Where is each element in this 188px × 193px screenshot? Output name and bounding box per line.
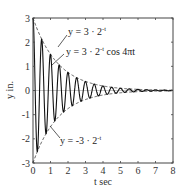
x-tick-labels: 012345678 [31, 165, 176, 176]
lower-envelope-curve [33, 91, 173, 163]
x-tick-label: 2 [66, 165, 71, 176]
y-tick-labels: 3210-1-2-3 [22, 13, 30, 169]
y-axis-label: y in. [4, 81, 15, 99]
annotation-envelope-lower: y = -3 · 2-t [60, 134, 101, 146]
x-axis-label: t sec [94, 176, 113, 187]
leader-line-envelope-lower [50, 126, 60, 138]
x-tick-label: 4 [101, 165, 106, 176]
x-tick-label: 8 [171, 165, 176, 176]
y-tick-label: 1 [25, 61, 30, 72]
x-tick-label: 7 [153, 165, 158, 176]
y-tick-label: 2 [25, 37, 30, 48]
x-tick-label: 1 [48, 165, 53, 176]
annotation-oscillation: y = 3 · 2-t cos 4πt [66, 45, 135, 57]
y-tick-label: -2 [22, 133, 30, 144]
annotation-envelope-upper: y = 3 · 2-t [68, 25, 106, 37]
x-tick-label: 5 [118, 165, 123, 176]
damped-oscillation-curve [33, 18, 173, 152]
y-tick-label: -1 [22, 109, 30, 120]
x-tick-label: 0 [31, 165, 36, 176]
damped-oscillation-chart: 012345678 3210-1-2-3 t sec y in. y = 3 ·… [0, 0, 188, 193]
plot-area [33, 18, 173, 163]
x-tick-label: 6 [136, 165, 141, 176]
x-tick-label: 3 [83, 165, 88, 176]
y-tick-label: 0 [25, 85, 30, 96]
y-tick-label: 3 [25, 13, 30, 24]
y-tick-label: -3 [22, 158, 30, 169]
